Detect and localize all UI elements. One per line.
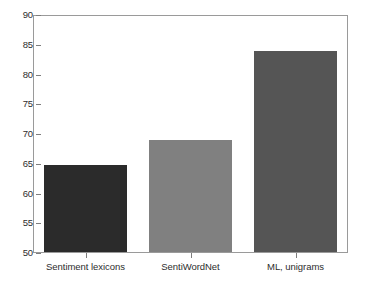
- y-tick-label: 55: [23, 217, 33, 228]
- y-tick-label: 65: [23, 158, 33, 169]
- y-tick-mark: [36, 253, 41, 254]
- y-tick-label: 70: [23, 128, 33, 139]
- y-tick-label: 75: [23, 98, 33, 109]
- bar: [149, 140, 232, 252]
- y-tick-label: 50: [23, 247, 33, 258]
- y-tick-label: 60: [23, 188, 33, 199]
- bar: [44, 165, 127, 252]
- bars-layer: [33, 15, 348, 253]
- x-tick-mark: [296, 253, 297, 258]
- x-tick-mark: [86, 253, 87, 258]
- bar: [254, 51, 337, 252]
- bar-chart-figure: 505560657075808590 Sentiment lexiconsSen…: [0, 0, 366, 285]
- x-tick-label: SentiWordNet: [161, 261, 219, 273]
- x-tick-label: ML, unigrams: [267, 261, 324, 273]
- y-tick-label: 90: [23, 9, 33, 20]
- y-tick-label: 80: [23, 69, 33, 80]
- y-tick-label: 85: [23, 39, 33, 50]
- x-tick-mark: [191, 253, 192, 258]
- x-tick-label: Sentiment lexicons: [46, 261, 125, 273]
